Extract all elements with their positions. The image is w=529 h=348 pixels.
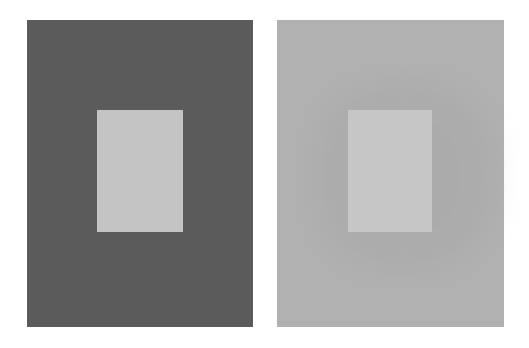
right-surround-panel	[277, 20, 504, 327]
right-target-rectangle	[348, 110, 432, 232]
left-surround-panel	[27, 20, 253, 327]
left-target-rectangle	[97, 110, 183, 232]
